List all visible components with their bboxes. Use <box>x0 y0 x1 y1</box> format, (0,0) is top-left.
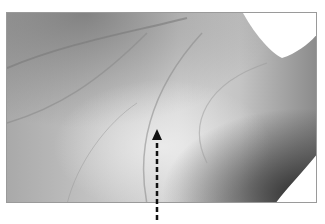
dashed-arrow-annotation <box>0 0 325 224</box>
arrow-head-icon <box>152 129 162 140</box>
